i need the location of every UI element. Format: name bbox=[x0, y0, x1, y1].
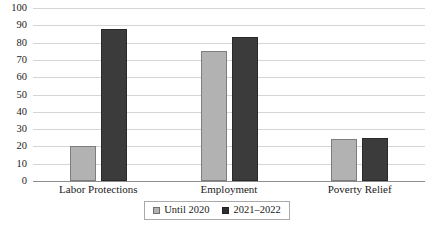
y-axis-tick-label: 40 bbox=[1, 107, 27, 118]
x-axis-category-label: Poverty Relief bbox=[294, 183, 425, 196]
y-axis-tick-label: 60 bbox=[1, 72, 27, 83]
chart-legend: Until 20202021–2022 bbox=[0, 201, 434, 220]
legend-box: Until 20202021–2022 bbox=[144, 201, 289, 220]
bar bbox=[201, 51, 227, 181]
bars-layer bbox=[33, 8, 425, 181]
x-axis-line bbox=[33, 181, 425, 182]
y-axis-tick-label: 20 bbox=[1, 141, 27, 152]
legend-label: 2021–2022 bbox=[233, 204, 280, 216]
y-axis-tick-label: 30 bbox=[1, 124, 27, 135]
legend-item[interactable]: Until 2020 bbox=[153, 204, 209, 216]
legend-swatch-icon bbox=[222, 207, 229, 214]
legend-swatch-icon bbox=[153, 207, 160, 214]
bar bbox=[331, 139, 357, 181]
legend-item[interactable]: 2021–2022 bbox=[222, 204, 280, 216]
bar bbox=[70, 146, 96, 181]
bar-group bbox=[201, 8, 258, 181]
bar bbox=[362, 138, 388, 181]
y-axis-tick-label: 90 bbox=[1, 20, 27, 31]
bar bbox=[101, 29, 127, 181]
plot-area: 1009080706050403020100 bbox=[33, 8, 425, 181]
y-axis-tick-label: 0 bbox=[1, 176, 27, 187]
bar bbox=[232, 37, 258, 181]
x-axis-category-label: Labor Protections bbox=[33, 183, 164, 196]
bar-group bbox=[70, 8, 127, 181]
x-axis-category-label: Employment bbox=[164, 183, 295, 196]
y-axis-tick-label: 70 bbox=[1, 55, 27, 66]
y-axis-tick-label: 100 bbox=[1, 3, 27, 14]
bar-chart: 1009080706050403020100 Labor Protections… bbox=[0, 0, 434, 227]
y-axis-tick-label: 50 bbox=[1, 90, 27, 101]
bar-group bbox=[331, 8, 388, 181]
y-axis-tick-label: 80 bbox=[1, 38, 27, 49]
x-axis-category-labels: Labor ProtectionsEmploymentPoverty Relie… bbox=[33, 183, 425, 199]
legend-label: Until 2020 bbox=[164, 204, 209, 216]
y-axis-tick-label: 10 bbox=[1, 159, 27, 170]
